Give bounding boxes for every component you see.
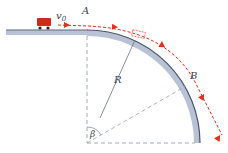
trajectory-arrow-4 — [214, 135, 223, 144]
curved-track — [87, 30, 200, 143]
radius-label: R — [113, 74, 122, 85]
car — [37, 18, 51, 30]
trajectory-arrow-3 — [198, 94, 207, 103]
point-b-label: B — [189, 70, 197, 81]
velocity-label: v0 — [56, 10, 67, 23]
angle-label: β — [89, 129, 95, 139]
horizontal-track — [6, 30, 88, 35]
point-a-label: A — [81, 5, 89, 16]
diagram-canvas: v0 A B R β — [0, 0, 228, 153]
